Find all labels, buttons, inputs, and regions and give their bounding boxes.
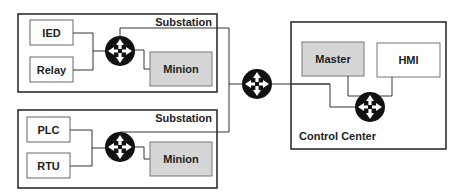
control-center: Master HMI Control Center <box>291 22 446 149</box>
minion-bottom-label: Minion <box>163 153 199 165</box>
relay-label: Relay <box>37 64 67 76</box>
network-switch-icon <box>355 92 385 122</box>
control-center-title: Control Center <box>299 130 377 142</box>
network-switch-icon <box>242 69 272 99</box>
substation-bottom-title: Substation <box>155 112 212 124</box>
substation-bottom: Substation PLC RTU Minion <box>18 110 217 188</box>
substation-top: Substation IED Relay Minion <box>18 14 217 92</box>
master-label: Master <box>315 53 351 65</box>
network-switch-icon <box>105 36 135 66</box>
substation-top-title: Substation <box>155 16 212 28</box>
hmi-label: HMI <box>398 54 418 66</box>
rtu-label: RTU <box>37 160 60 172</box>
ied-label: IED <box>42 27 60 39</box>
plc-label: PLC <box>38 124 60 136</box>
minion-top-label: Minion <box>163 63 199 75</box>
wan-link <box>272 84 355 107</box>
network-switch-icon <box>105 132 135 162</box>
network-diagram: Substation IED Relay Minion Substation P… <box>0 0 464 196</box>
